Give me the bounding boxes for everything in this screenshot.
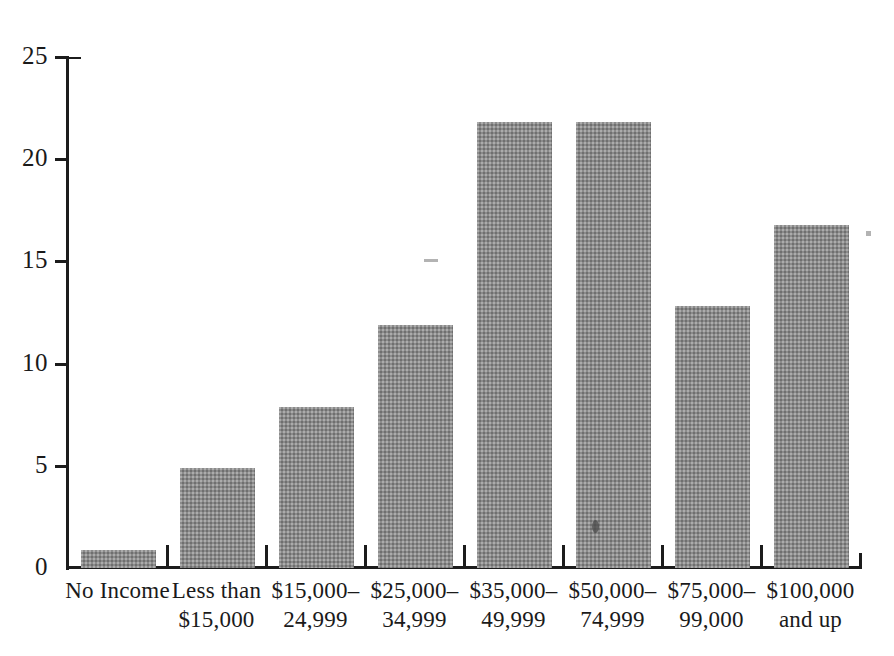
- bar: [279, 407, 354, 568]
- y-tick-mark: [55, 260, 69, 263]
- y-tick-label: 25: [8, 43, 48, 68]
- y-tick-mark: [55, 465, 69, 468]
- bar: [477, 122, 552, 568]
- scan-artifact-tick: [866, 231, 871, 236]
- x-tick-mark: [562, 545, 565, 567]
- x-tick-mark: [463, 545, 466, 567]
- bar: [81, 550, 156, 568]
- x-tick-mark: [265, 545, 268, 567]
- x-tick-mark: [661, 545, 664, 567]
- bar-chart: 0510152025 No IncomeLess than $15,000$15…: [0, 0, 894, 656]
- bar: [378, 325, 453, 568]
- x-tick-mark: [364, 545, 367, 567]
- bar: [576, 122, 651, 568]
- x-tick-label: $100,000 and up: [749, 576, 872, 634]
- y-tick-mark: [55, 158, 69, 161]
- y-tick-mark: [55, 363, 69, 366]
- y-tick-label: 20: [8, 145, 48, 170]
- scan-artifact-speck: [592, 520, 599, 533]
- bar: [774, 225, 849, 568]
- y-tick-label: 0: [8, 554, 48, 579]
- bar: [675, 306, 750, 568]
- x-tick-mark: [166, 545, 169, 567]
- y-tick-label: 10: [8, 350, 48, 375]
- y-tick-mark: [55, 56, 69, 59]
- x-tick-mark: [760, 545, 763, 567]
- scan-artifact-dash: [424, 259, 438, 262]
- plot-area: [68, 57, 860, 568]
- bar: [180, 468, 255, 568]
- y-tick-label: 15: [8, 247, 48, 272]
- y-tick-label: 5: [8, 452, 48, 477]
